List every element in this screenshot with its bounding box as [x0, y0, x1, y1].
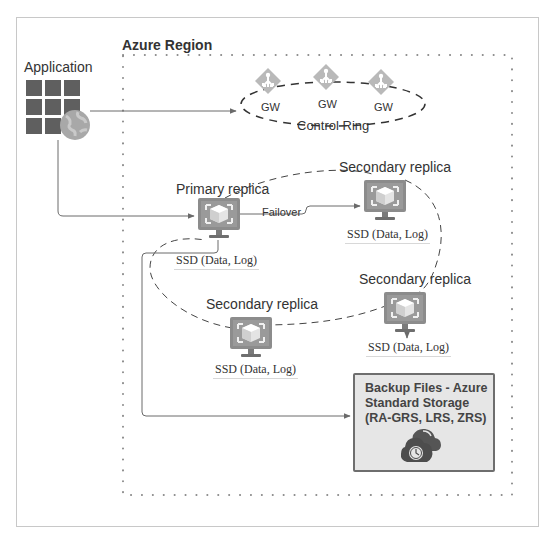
gateway-icon: [313, 64, 339, 90]
control-ring-label: Control Ring: [297, 118, 369, 133]
backup-storage-text: Backup Files - Azure Standard Storage (R…: [365, 381, 488, 426]
azure-region-title: Azure Region: [122, 37, 212, 53]
secondary-ssd-label: SSD (Data, Log): [366, 340, 451, 357]
secondary-replica-vm-icon: [364, 180, 406, 220]
application-label: Application: [24, 59, 93, 75]
backup-redundancy-line: (RA-GRS, LRS, ZRS): [365, 411, 488, 426]
failover-label: Failover: [262, 206, 301, 218]
secondary-ssd-label: SSD (Data, Log): [345, 227, 430, 244]
gateway-icon: [255, 68, 281, 94]
gateway-label: GW: [318, 98, 337, 110]
backup-title-line: Backup Files - Azure: [365, 381, 488, 396]
backup-title-line: Standard Storage: [365, 396, 488, 411]
cloud-backup-clock-icon: [399, 427, 443, 467]
secondary-replica-vm-icon: [230, 317, 272, 357]
primary-replica-vm-icon: [198, 198, 240, 238]
secondary-replica-vm-icon: [384, 292, 426, 332]
application-icon: [26, 80, 90, 140]
secondary-replica-label: Secondary replica: [339, 159, 451, 175]
primary-ssd-label: SSD (Data, Log): [174, 253, 259, 270]
secondary-replica-label: Secondary replica: [206, 296, 318, 312]
gateway-label: GW: [374, 101, 393, 113]
secondary-ssd-label: SSD (Data, Log): [213, 362, 298, 379]
gateway-label: GW: [261, 101, 280, 113]
primary-replica-label: Primary replica: [176, 181, 269, 197]
gateway-icon: [368, 69, 394, 95]
secondary-replica-label: Secondary replica: [359, 271, 471, 287]
backup-storage-box: Backup Files - Azure Standard Storage (R…: [353, 373, 495, 472]
